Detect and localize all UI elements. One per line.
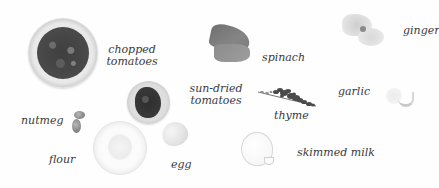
ginger-label: ginger (403, 25, 439, 37)
chopped-tomatoes-fill (37, 27, 89, 79)
ginger-knot-icon (360, 26, 366, 32)
nutmeg-icon (74, 111, 85, 119)
flour-bowl-image (93, 121, 147, 175)
ginger-image (340, 10, 388, 48)
sun-dried-tomatoes-fill (135, 87, 161, 118)
spinach-image (208, 26, 254, 66)
garlic-label: garlic (338, 86, 370, 98)
spinach-label: spinach (262, 52, 305, 64)
nutmeg-icon (72, 119, 81, 133)
egg-label: egg (171, 159, 192, 171)
egg-image (159, 118, 192, 149)
jug-spout-icon (264, 157, 274, 165)
skimmed-milk-jug-image (241, 132, 273, 166)
nutmeg-label: nutmeg (21, 115, 64, 127)
garlic-clove-icon (398, 92, 414, 107)
sun-dried-tomatoes-label: sun-dried tomatoes (186, 83, 246, 107)
skimmed-milk-label: skimmed milk (297, 147, 375, 159)
nutmeg-image (72, 111, 86, 135)
flour-fill (108, 134, 132, 160)
chopped-tomatoes-label: chopped tomatoes (104, 44, 160, 68)
sun-dried-tomatoes-label-line2: tomatoes (186, 95, 246, 107)
chopped-tomatoes-bowl-image (28, 18, 98, 88)
thyme-image (256, 84, 322, 110)
thyme-label: thyme (274, 110, 309, 122)
garlic-image (384, 86, 414, 108)
spinach-leaf-icon (214, 44, 250, 62)
flour-label: flour (49, 154, 75, 166)
thyme-sprig-icon (256, 84, 322, 110)
sun-dried-tomatoes-bowl-image (127, 81, 170, 124)
chopped-tomatoes-label-line2: tomatoes (104, 56, 160, 68)
